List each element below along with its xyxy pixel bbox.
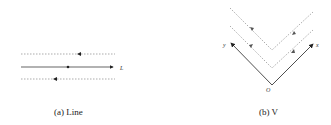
x-axis <box>272 44 313 85</box>
v-diagram: y x O <box>165 0 331 125</box>
label-x: x <box>315 42 319 48</box>
dashed-v-inner <box>230 26 313 68</box>
arrow-icon <box>250 27 254 31</box>
arrow-left-icon <box>53 77 57 81</box>
arrow-icon <box>292 31 296 35</box>
dashed-v-outer <box>230 8 313 50</box>
label-L: L <box>119 65 124 71</box>
caption-b: (b) V <box>259 107 278 117</box>
center-dot <box>67 66 70 69</box>
caption-a: (a) Line <box>54 107 83 117</box>
label-origin: O <box>266 87 271 93</box>
y-axis <box>231 43 272 85</box>
figure-b-v: y x O (b) V <box>165 0 331 125</box>
arrow-left-icon <box>77 52 81 56</box>
label-y: y <box>222 42 226 48</box>
arrow-icon <box>291 49 295 53</box>
figure-a-line: L (a) Line <box>0 0 165 125</box>
